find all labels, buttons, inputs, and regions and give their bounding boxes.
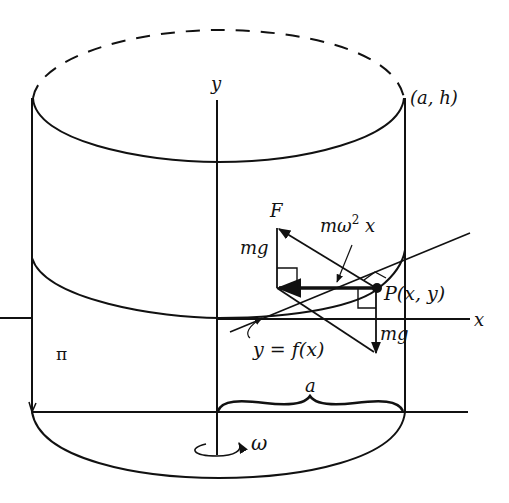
curve-label: y = f(x): [252, 338, 324, 360]
mg-left-label: mg: [240, 237, 269, 258]
y-axis-label: y: [210, 73, 222, 94]
top-rim-front: [33, 98, 404, 162]
pi-label: π: [56, 344, 67, 364]
radius-label: a: [305, 375, 316, 396]
x-axis-label: x: [474, 309, 484, 330]
mg-right-label: mg: [380, 323, 409, 344]
point-P: [372, 283, 382, 293]
centripetal-label: mω2 x: [320, 213, 375, 236]
corner-point-label: (a, h): [410, 87, 458, 108]
point-P-label: P(x, y): [383, 282, 445, 304]
bottom-rim-front: [32, 412, 405, 478]
radius-brace: [218, 396, 403, 411]
omega-label: ω: [251, 431, 267, 455]
right-angle-mark-left: [277, 268, 297, 288]
force-F-arrow: [279, 229, 376, 288]
force-F-label: F: [269, 200, 284, 221]
paraboloid-surface: [32, 250, 405, 318]
rotating-cylinder-diagram: y (a, h) F mg mω2 x P(x, y) x mg y = f(x…: [0, 0, 509, 503]
centripetal-leader: [337, 245, 352, 282]
